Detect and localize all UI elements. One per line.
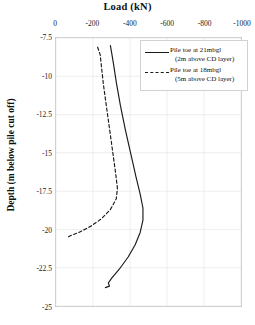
legend-label-0: Pile toe at 21mbgl (2m above CD layer) xyxy=(170,46,234,63)
legend-item-0: Pile toe at 21mbgl (2m above CD layer) xyxy=(144,46,244,63)
legend-line-dashed-icon xyxy=(144,68,170,77)
figure: Load (kN) Depth (m below pile cut off) 0… xyxy=(0,0,255,325)
legend-line-solid-icon xyxy=(144,48,170,57)
y-tick-2: -12.5 xyxy=(36,110,52,119)
legend-label-0-line1: Pile toe at 21mbgl xyxy=(170,46,221,54)
y-tick-7: -25 xyxy=(42,303,52,312)
y-tick-3: -15 xyxy=(42,148,52,157)
legend-label-1-line2: (5m above CD layer) xyxy=(170,75,234,84)
legend: Pile toe at 21mbgl (2m above CD layer) P… xyxy=(140,40,248,91)
x-tick-4: -800 xyxy=(198,19,212,28)
y-tick-5: -20 xyxy=(42,225,52,234)
y-tick-1: -10 xyxy=(42,71,52,80)
x-tick-2: -400 xyxy=(123,19,137,28)
series-line-1 xyxy=(68,47,118,237)
x-tick-1: -200 xyxy=(86,19,100,28)
series-paths xyxy=(68,46,143,288)
y-tick-4: -17.5 xyxy=(36,187,52,196)
legend-label-1: Pile toe at 18mbgl (5m above CD layer) xyxy=(170,66,234,83)
x-tick-3: -600 xyxy=(160,19,174,28)
legend-label-1-line1: Pile toe at 18mbgl xyxy=(170,66,221,74)
legend-item-1: Pile toe at 18mbgl (5m above CD layer) xyxy=(144,66,244,83)
y-tick-0: -7.5 xyxy=(40,33,52,42)
series-line-0 xyxy=(105,46,143,288)
legend-label-0-line2: (2m above CD layer) xyxy=(170,55,234,64)
y-axis-tick-labels: -7.5-10-12.5-15-17.5-20-22.5-25 xyxy=(0,0,55,325)
x-tick-5: -1000 xyxy=(233,19,251,28)
y-tick-6: -22.5 xyxy=(36,264,52,273)
